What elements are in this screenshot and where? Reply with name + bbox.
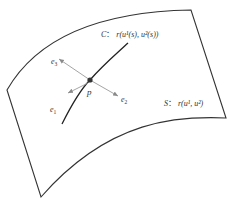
surface-diagram: p e3 e2 e1 C：r(u¹(s), u²(s)) S：r(u¹, u²) xyxy=(0,0,230,209)
surface-s-label: S：r(u¹, u²) xyxy=(164,99,204,108)
point-p-marker xyxy=(87,77,92,82)
curve-c-label: C：r(u¹(s), u²(s)) xyxy=(101,30,159,39)
point-p-label: p xyxy=(86,87,92,97)
